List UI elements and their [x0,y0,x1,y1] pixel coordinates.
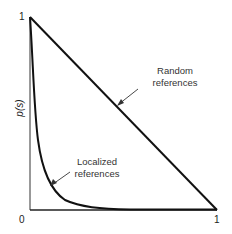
y-axis-label: p(s) [14,96,26,120]
origin-tick: 0 [19,214,25,226]
y-max-tick: 1 [19,11,25,23]
random-label-line1: Random [140,65,210,77]
localized-references-label: Localized references [70,156,124,180]
probability-plot [0,0,232,234]
x-max-tick: 1 [214,214,220,226]
localized-label-line2: references [70,168,124,180]
random-label-line2: references [140,77,210,89]
random-references-label: Random references [140,65,210,89]
localized-label-line1: Localized [70,156,124,168]
random-arrowhead [117,99,124,106]
random-references-line [30,17,217,210]
